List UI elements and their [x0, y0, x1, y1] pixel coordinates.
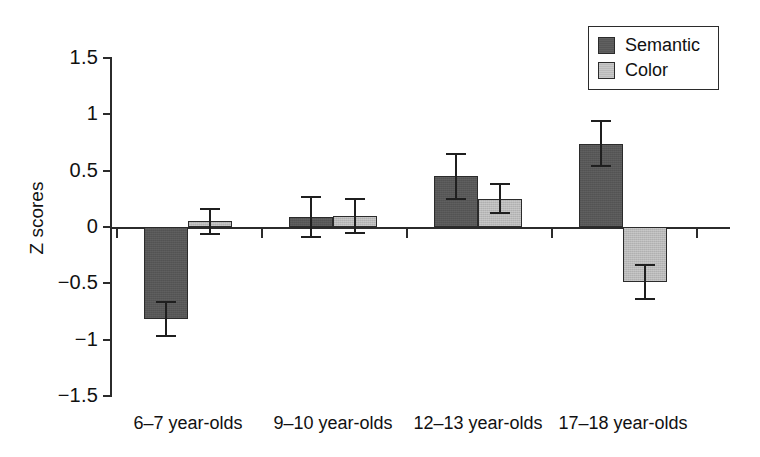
error-bar-stem	[165, 302, 167, 336]
error-bar-cap	[301, 196, 321, 198]
error-bar-stem	[499, 184, 501, 213]
error-bar-cap	[591, 165, 611, 167]
x-axis-category-label: 9–10 year-olds	[261, 412, 406, 434]
legend-label-color: Color	[625, 61, 668, 79]
legend-swatch-semantic-icon	[598, 37, 615, 54]
x-axis-category-label: 12–13 year-olds	[406, 412, 551, 434]
error-bar-cap	[446, 198, 466, 200]
error-bar-cap	[490, 212, 510, 214]
error-bar-cap	[635, 264, 655, 266]
legend-item-color: Color	[598, 59, 709, 81]
error-bar-cap	[345, 198, 365, 200]
error-bar-cap	[345, 232, 365, 234]
error-bar-stem	[455, 154, 457, 199]
error-bar-cap	[490, 183, 510, 185]
error-bar-cap	[200, 208, 220, 210]
error-bar-cap	[446, 153, 466, 155]
bar-chart-figure: Z scores 1.510.50−0.5−1−1.5 6–7 year-old…	[0, 0, 760, 457]
error-bar-stem	[209, 209, 211, 234]
error-bar-cap	[156, 301, 176, 303]
error-bar-cap	[301, 236, 321, 238]
error-bar-stem	[600, 121, 602, 166]
error-bar-stem	[354, 199, 356, 233]
error-bar-cap	[156, 335, 176, 337]
x-axis-category-label: 17–18 year-olds	[551, 412, 696, 434]
legend-item-semantic: Semantic	[598, 34, 709, 56]
error-bar-cap	[200, 233, 220, 235]
legend-swatch-color-icon	[598, 62, 615, 79]
legend-label-semantic: Semantic	[625, 36, 700, 54]
x-axis-category-label: 6–7 year-olds	[116, 412, 261, 434]
error-bar-stem	[310, 197, 312, 238]
error-bar-stem	[644, 265, 646, 299]
chart-legend: Semantic Color	[588, 26, 719, 90]
error-bar-cap	[635, 298, 655, 300]
error-bar-cap	[591, 120, 611, 122]
